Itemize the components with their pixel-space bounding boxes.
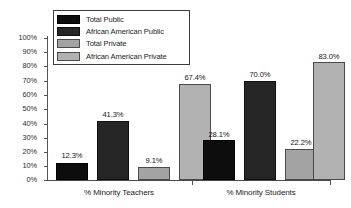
- legend-label: Total Public: [86, 15, 124, 24]
- bar-label-teachers-aa-public: 41.3%: [89, 110, 137, 119]
- bar-label-students-total-private: 22.2%: [277, 138, 325, 147]
- y-tick-label-0: 0%: [27, 176, 37, 184]
- y-tick-label-100: 100%: [18, 34, 37, 42]
- bar-teachers-total-public: [56, 163, 88, 181]
- legend-item-african-american-private: African American Private: [57, 50, 186, 62]
- legend-swatch-icon: [57, 39, 80, 48]
- x-tick-mark: [330, 181, 331, 185]
- x-axis-line: [47, 180, 331, 181]
- bar-label-students-aa-public: 70.0%: [236, 70, 284, 79]
- y-tick-label-80: 80%: [23, 62, 38, 70]
- bar-chart: 100% 90% 80% 70% 60% 50% 40% 30% 20% 10%…: [0, 0, 351, 208]
- legend-item-total-public: Total Public: [57, 13, 186, 25]
- legend-item-total-private: Total Private: [57, 38, 186, 50]
- bar-students-aa-public: [244, 81, 276, 180]
- legend-label: Total Private: [86, 39, 126, 48]
- y-tick-label-60: 60%: [23, 91, 38, 99]
- legend-swatch-icon: [57, 52, 80, 61]
- legend-swatch-icon: [57, 15, 80, 24]
- x-category-label-students: % Minority Students: [192, 188, 330, 198]
- y-tick-label-20: 20%: [23, 148, 38, 156]
- bar-teachers-total-private: [138, 167, 170, 180]
- legend-label: African American Public: [86, 27, 164, 36]
- bar-label-teachers-total-public: 12.3%: [48, 151, 96, 160]
- legend-swatch-icon: [57, 27, 80, 36]
- bar-students-aa-private: [313, 62, 345, 180]
- legend-item-african-american-public: African American Public: [57, 25, 186, 37]
- bar-label-students-total-public: 28.1%: [195, 130, 243, 139]
- y-tick-label-40: 40%: [23, 120, 38, 128]
- y-tick-label-30: 30%: [23, 134, 38, 142]
- x-tick-mark: [192, 181, 193, 185]
- y-tick-label-70: 70%: [23, 77, 38, 85]
- y-axis: 100% 90% 80% 70% 60% 50% 40% 30% 20% 10%…: [0, 0, 44, 208]
- bar-teachers-aa-public: [97, 121, 129, 180]
- legend-label: African American Private: [86, 52, 167, 61]
- x-category-label-teachers: % Minority Teachers: [46, 188, 192, 198]
- bar-label-teachers-total-private: 9.1%: [130, 156, 178, 165]
- chart-legend: Total Public African American Public Tot…: [53, 10, 190, 65]
- y-tick-label-50: 50%: [23, 105, 38, 113]
- bar-label-teachers-aa-private: 67.4%: [171, 73, 219, 82]
- bar-label-students-aa-private: 83.0%: [305, 52, 351, 61]
- y-tick-label-10: 10%: [23, 162, 38, 170]
- bar-students-total-public: [203, 140, 235, 180]
- y-tick-label-90: 90%: [23, 48, 38, 56]
